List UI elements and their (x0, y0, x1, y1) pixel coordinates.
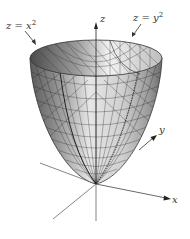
pointer-x2-line (25, 31, 34, 42)
trace-yz-label: z = y2 (133, 12, 163, 23)
pointer-y2-line (134, 24, 141, 34)
axis-z-label: z (100, 14, 105, 24)
trace-xz-label: z = x2 (6, 20, 36, 31)
axis-z-arrowhead (94, 22, 98, 29)
axis-y-line (139, 138, 153, 150)
axis-y (139, 135, 157, 150)
pointer-y2-arrowhead (132, 32, 136, 37)
axis-x-line (96, 184, 166, 198)
axis-x-label: x (172, 195, 178, 205)
axis-x (53, 184, 171, 219)
axis-y-label: y (159, 125, 165, 135)
paraboloid-figure: z = x2 z = y2 z y x (0, 0, 190, 239)
axis-neg-y-line (53, 184, 96, 219)
axis-x-arrowhead (164, 196, 172, 201)
axis-y-arrowhead (151, 135, 158, 141)
paraboloid-plot (0, 0, 190, 239)
